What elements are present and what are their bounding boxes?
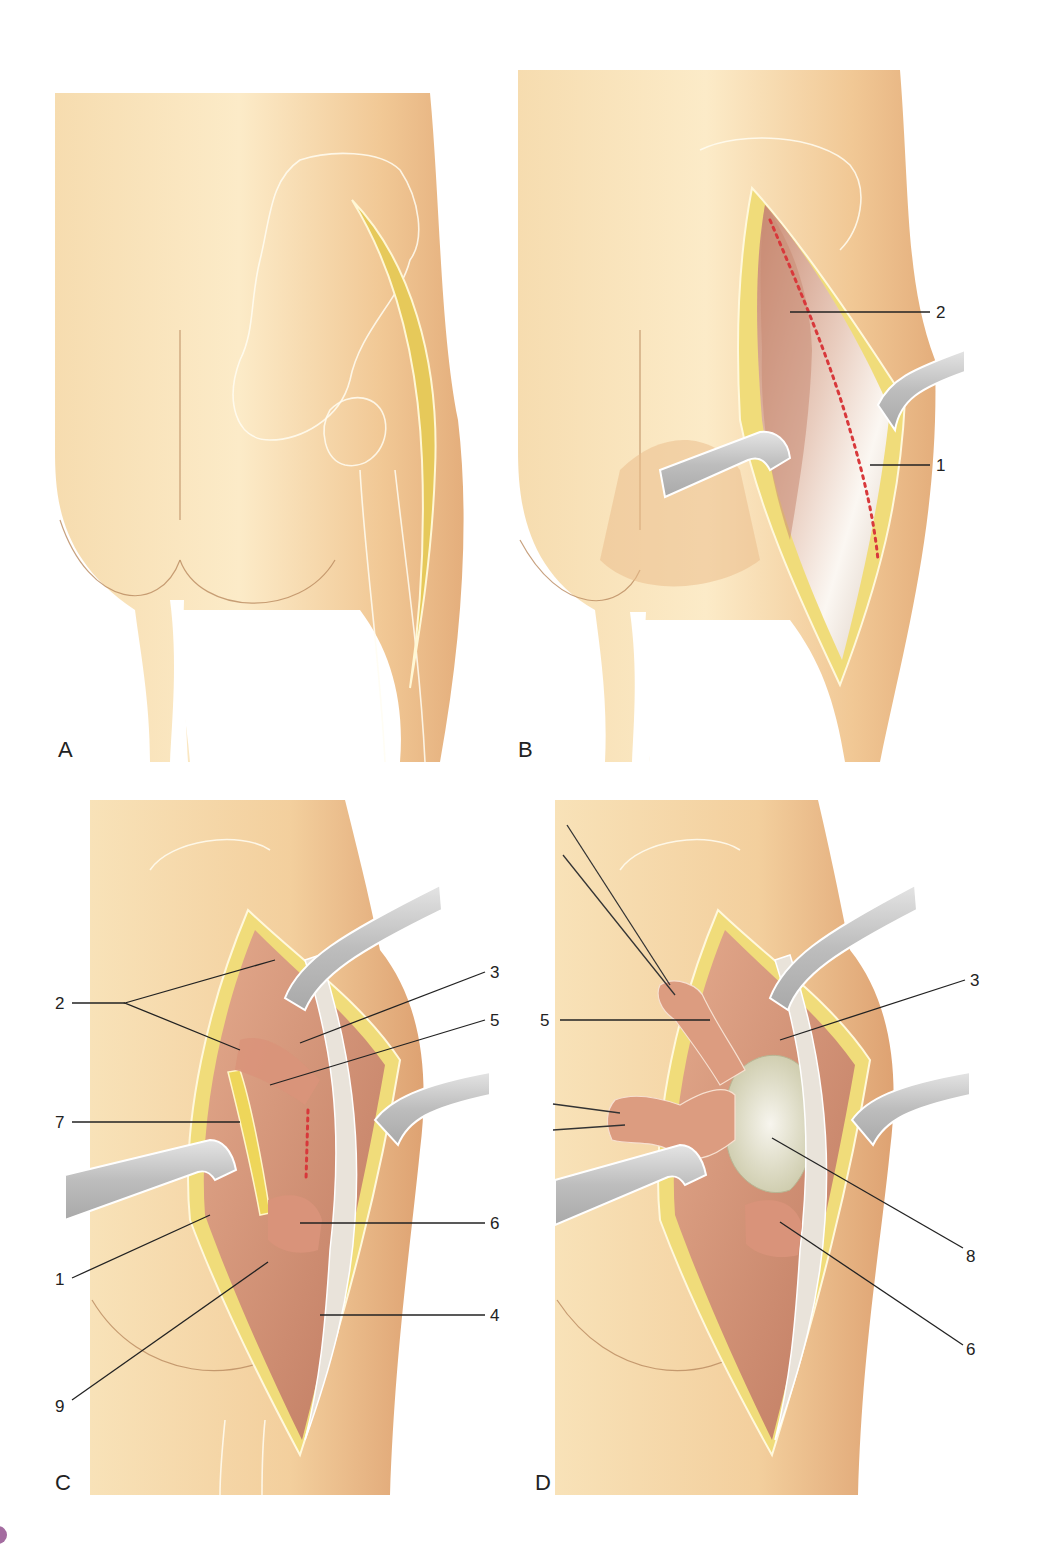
- rotator-release-dotted-line: [306, 1110, 308, 1180]
- callout-c-3: 3: [490, 963, 499, 982]
- callout-b-2: 2: [936, 303, 945, 322]
- callout-c-1: 1: [55, 1270, 64, 1289]
- callout-c-6: 6: [490, 1214, 499, 1233]
- callout-d-5: 5: [540, 1011, 549, 1030]
- panel-a-body: [55, 93, 464, 762]
- panel-letter-b: B: [518, 737, 533, 762]
- page-marker-circle: [0, 1526, 7, 1544]
- surgical-figure: A 2 1 B: [0, 0, 1037, 1559]
- callout-c-7: 7: [55, 1113, 64, 1132]
- callout-d-6: 6: [966, 1340, 975, 1359]
- panel-d: 5 3 8 6 D: [535, 800, 979, 1495]
- callout-c-5: 5: [490, 1011, 499, 1030]
- panel-b: 2 1 B: [518, 70, 965, 762]
- callout-d-8: 8: [966, 1247, 975, 1266]
- panel-letter-d: D: [535, 1470, 551, 1495]
- callout-c-4: 4: [490, 1306, 499, 1325]
- panel-a: A: [55, 93, 464, 762]
- callout-c-2: 2: [55, 994, 64, 1013]
- callout-c-9: 9: [55, 1397, 64, 1416]
- panel-letter-a: A: [58, 737, 73, 762]
- callout-d-3: 3: [970, 971, 979, 990]
- callout-b-1: 1: [936, 456, 945, 475]
- panel-c: 2 7 1 9 3 5 6 4 C: [55, 800, 499, 1495]
- panel-letter-c: C: [55, 1470, 71, 1495]
